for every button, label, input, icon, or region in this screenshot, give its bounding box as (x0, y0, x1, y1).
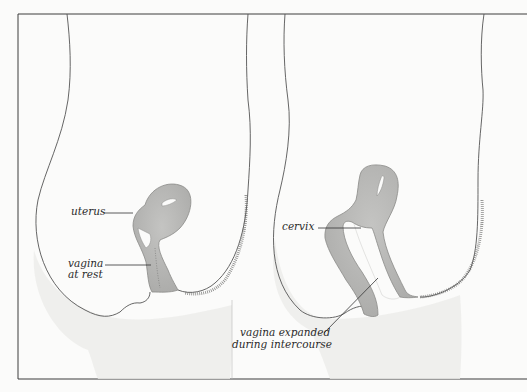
label-vagina-expanded-line1: vagina expanded (240, 327, 330, 338)
panel-at-rest (34, 14, 251, 379)
pubic-hair-left (185, 195, 246, 294)
label-cervix: cervix (282, 221, 314, 232)
front-outline-right (420, 14, 484, 297)
label-vagina-expanded-line2: during intercourse (232, 339, 332, 350)
uterus-shape-raised (325, 165, 418, 317)
thigh-shading-left (34, 250, 232, 379)
label-vagina-at-rest-line2: at rest (68, 269, 103, 280)
label-uterus: uterus (71, 206, 105, 217)
pubic-hair-right (420, 200, 482, 297)
panel-during-intercourse (273, 14, 484, 379)
